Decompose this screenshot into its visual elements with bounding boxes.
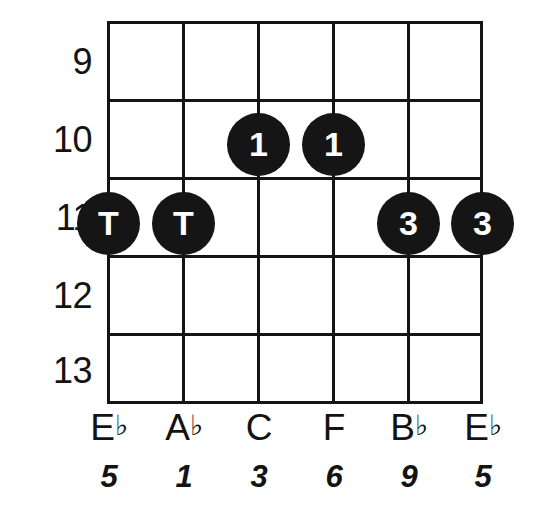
fret-number-column: 9 10 11 12 13 [0,0,92,528]
note-letter: E [90,407,115,448]
finger-dot-label: T [173,206,194,240]
finger-dot-string6-fret11[interactable]: 3 [451,192,514,255]
fret-line-11-12 [107,255,483,258]
note-label-string-6: E♭ [436,409,530,446]
fret-number-9: 9 [22,44,92,80]
fret-number-12: 12 [22,278,92,314]
finger-dot-label: T [98,206,119,240]
fret-line-9-10 [107,99,483,102]
note-letter: C [246,407,273,448]
flat-icon: ♭ [415,410,428,441]
string-line-4 [332,21,335,404]
finger-dot-string5-fret11[interactable]: 3 [377,192,440,255]
chord-diagram: 9 10 11 12 13 T T 1 1 3 3 E♭ [0,0,541,528]
flat-icon: ♭ [489,410,502,441]
fret-number-13: 13 [22,353,92,389]
finger-dot-label: 3 [399,206,418,240]
interval-label-string-6: 5 [436,461,530,492]
finger-dot-string2-fret11[interactable]: T [152,192,215,255]
finger-dot-label: 3 [473,206,492,240]
finger-dot-string4-fret10[interactable]: 1 [302,113,365,176]
fret-line-10-11 [107,177,483,180]
fret-line-12-13 [107,333,483,336]
finger-dot-label: 1 [324,127,343,161]
fret-line-bottom [107,401,483,404]
finger-dot-label: 1 [249,127,268,161]
note-letter: F [323,407,346,448]
flat-icon: ♭ [115,410,128,441]
flat-icon: ♭ [190,410,203,441]
note-letter: E [464,407,489,448]
finger-dot-string3-fret10[interactable]: 1 [227,113,290,176]
finger-dot-string1-fret11[interactable]: T [77,192,140,255]
string-line-3 [257,21,260,404]
note-letter: A [165,407,190,448]
fret-line-top [107,21,483,24]
fret-number-10: 10 [22,122,92,158]
note-letter: B [390,407,415,448]
